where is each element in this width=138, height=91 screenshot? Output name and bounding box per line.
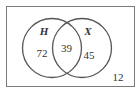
set-h-label: H (39, 25, 49, 37)
x-only-count: 45 (84, 49, 96, 61)
h-only-count: 72 (37, 47, 48, 59)
set-x-label: X (83, 25, 92, 37)
venn-diagram: H X 72 39 45 12 (0, 0, 138, 91)
intersection-count: 39 (61, 42, 73, 54)
outside-count: 12 (113, 71, 124, 83)
